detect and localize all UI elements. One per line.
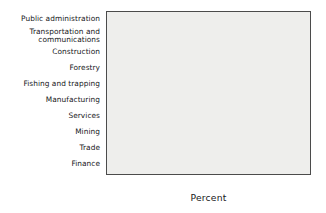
category-label-finance: Finance	[0, 160, 100, 168]
category-label-construction: Construction	[0, 48, 100, 56]
plot-area	[106, 11, 311, 175]
category-label-trade: Trade	[0, 144, 100, 152]
category-label-fishing-and-trapping: Fishing and trapping	[0, 80, 100, 88]
category-label-mining: Mining	[0, 128, 100, 136]
category-label-transportation-and-communications: Transportation and communications	[0, 28, 100, 44]
category-label-public-administration: Public administration	[0, 15, 100, 23]
bars-container	[107, 12, 310, 174]
category-label-manufacturing: Manufacturing	[0, 96, 100, 104]
bar-chart-figure: Public administration Transportation and…	[0, 0, 326, 213]
category-axis: Public administration Transportation and…	[0, 11, 103, 175]
x-axis-title: Percent	[106, 192, 311, 203]
category-label-services: Services	[0, 112, 100, 120]
category-label-forestry: Forestry	[0, 64, 100, 72]
